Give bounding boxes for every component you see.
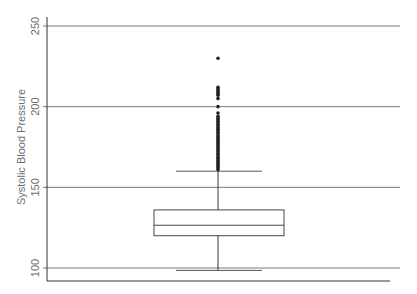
outlier-point	[216, 97, 220, 101]
y-ticks: 100150200250	[29, 17, 41, 277]
outliers	[216, 56, 220, 171]
outlier-point	[216, 105, 220, 109]
y-tick-label-150: 150	[29, 178, 41, 196]
y-tick-label-200: 200	[29, 97, 41, 115]
outlier-point	[216, 115, 220, 119]
gridlines	[43, 26, 400, 268]
box-plot: 100150200250 Systolic Blood Pressure	[0, 0, 417, 294]
outlier-point	[216, 86, 220, 90]
box-group	[154, 171, 284, 270]
outlier-point	[216, 56, 220, 60]
iqr-box	[154, 210, 284, 236]
y-axis-title: Systolic Blood Pressure	[15, 89, 27, 205]
y-tick-label-250: 250	[29, 17, 41, 35]
y-tick-label-100: 100	[29, 259, 41, 277]
outlier-point	[216, 111, 220, 115]
